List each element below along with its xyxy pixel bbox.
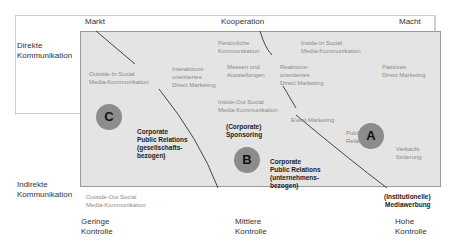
axis-label-kooperation: Kooperation	[221, 17, 264, 27]
label-corporate-pr-gesellschaftsbezogen: Corporate Public Relations (gesellschaft…	[137, 128, 188, 160]
axis-label-indirekte-kommunikation: Indirekte Kommunikation	[17, 180, 72, 200]
circle-c: C	[96, 104, 122, 130]
axis-label-mittlere-kontrolle: Mittlere Kontrolle	[235, 217, 267, 237]
axis-label-macht: Macht	[399, 17, 421, 27]
label-reaktions: Reaktions- orientiertes Direct Marketing	[280, 63, 324, 87]
axis-label-hohe-kontrolle: Hohe Kontrolle	[395, 217, 427, 237]
axis-label-direkte-kommunikation: Direkte Kommunikation	[17, 41, 72, 61]
label-inside-out: Inside-Out Social Media-Kommunikation	[218, 98, 278, 114]
label-institutionelle-mediawerbung: (Institutionelle) Mediawerbung	[384, 193, 431, 209]
label-corporate-sponsoring: (Corporate) Sponsoring	[226, 123, 262, 139]
label-event-marketing: Event Marketing	[291, 116, 334, 124]
label-interaktions: Interaktions- orientiertes Direct Market…	[172, 65, 216, 89]
label-outside-in: Outside-In Social Media-Kommunikation	[89, 70, 149, 86]
label-passives: Passives Direct Marketing	[382, 63, 426, 79]
label-messen: Messen und Ausstellungen	[227, 63, 265, 79]
label-corporate-pr-unternehmensbezogen: Corporate Public Relations (unternehmens…	[270, 158, 321, 190]
label-verkaufsfoerderung: Verkaufs- förderung	[396, 145, 422, 161]
axis-label-geringe-kontrolle: Geringe Kontrolle	[81, 217, 113, 237]
circle-a: A	[358, 123, 384, 149]
label-persoenliche: Persönliche Kommunikation	[218, 39, 259, 55]
axis-label-markt: Markt	[85, 17, 105, 27]
label-inside-in: Inside-In Social Media-Kommunikation	[301, 39, 361, 55]
circle-b: B	[234, 147, 260, 173]
label-outside-out: Outside-Out Social Media-Kommunikation	[86, 193, 146, 209]
